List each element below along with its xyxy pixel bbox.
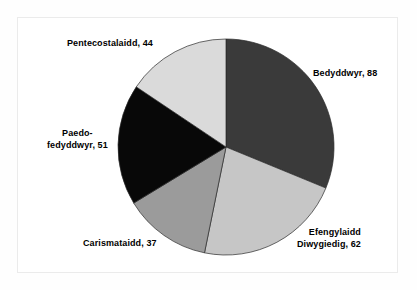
pie-label-carismataidd: Carismataidd, 37 xyxy=(83,238,157,250)
pie-slices xyxy=(118,39,334,255)
pie-label-paedo-fedyddwyr: Paedo-fedyddwyr, 51 xyxy=(47,128,108,151)
pie-chart-screenshot: Bedyddwyr, 88 EfengylaiddDiwygiedig, 62 … xyxy=(0,0,417,290)
pie-label-pentecostalaidd: Pentecostalaidd, 44 xyxy=(67,38,153,50)
pie-label-bedyddwyr: Bedyddwyr, 88 xyxy=(313,68,377,80)
pie-label-efengylaidd-diwygiedig: EfengylaiddDiwygiedig, 62 xyxy=(297,227,361,250)
